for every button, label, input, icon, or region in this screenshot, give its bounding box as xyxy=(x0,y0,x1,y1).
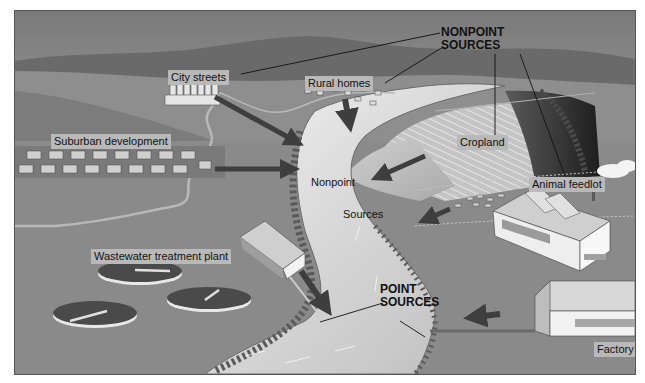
label-river-nonpoint: Nonpoint xyxy=(311,176,355,189)
label-river-sources: Sources xyxy=(343,208,383,221)
diagram-frame: NONPOINT SOURCES City streets Rural home… xyxy=(14,10,636,375)
nonpoint-sources-heading: NONPOINT SOURCES xyxy=(441,26,504,52)
landscape-illustration xyxy=(15,11,635,374)
label-animal-feedlot: Animal feedlot xyxy=(529,177,605,192)
label-city-streets: City streets xyxy=(168,70,229,85)
point-sources-heading: POINT SOURCES xyxy=(380,283,439,309)
label-cropland: Cropland xyxy=(457,135,508,150)
label-suburban-development: Suburban development xyxy=(51,134,171,149)
label-rural-homes: Rural homes xyxy=(305,76,373,91)
suburban-houses xyxy=(15,146,225,178)
label-factory: Factory xyxy=(594,342,636,357)
label-wastewater-treatment-plant: Wastewater treatment plant xyxy=(91,249,231,264)
